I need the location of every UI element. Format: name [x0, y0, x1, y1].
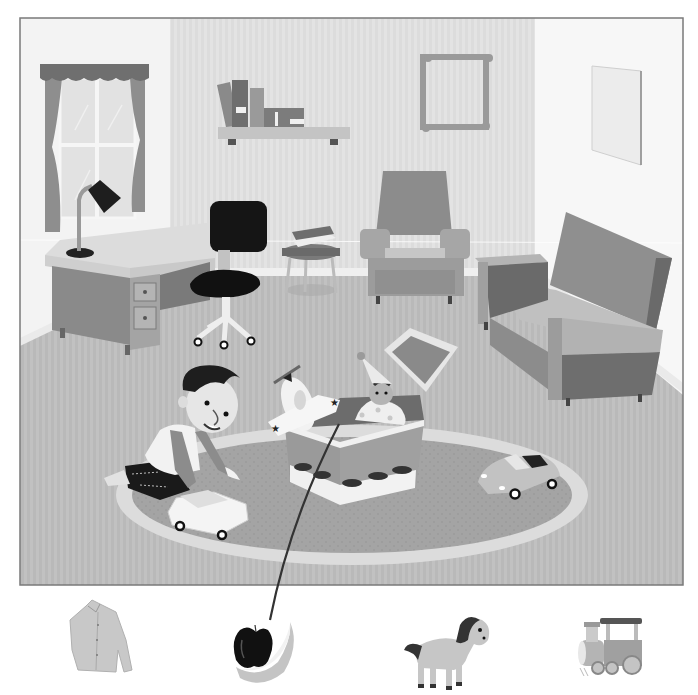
- svg-text:★: ★: [271, 423, 280, 434]
- choice-train[interactable]: [578, 618, 642, 676]
- curtain-valance: [40, 64, 149, 81]
- choice-horse[interactable]: [404, 617, 489, 690]
- apple-icon: [234, 627, 273, 668]
- wall-panel: [592, 66, 641, 165]
- book-stack: [264, 108, 304, 127]
- puzzle-page: ★ ★: [0, 0, 698, 695]
- puzzle-illustration: ★ ★: [0, 0, 698, 695]
- choice-shirt[interactable]: [70, 600, 132, 672]
- svg-text:★: ★: [330, 397, 339, 408]
- book: [250, 88, 264, 127]
- book: [232, 80, 248, 127]
- scene: ★ ★: [20, 18, 683, 585]
- choice-fruit[interactable]: [234, 622, 294, 683]
